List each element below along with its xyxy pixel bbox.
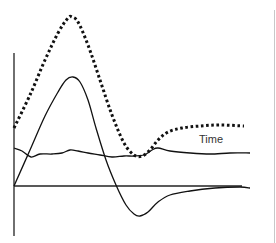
solid-peak-response-curve [14, 77, 250, 216]
diagram-canvas [0, 0, 276, 243]
frame-border [274, 10, 275, 243]
time-axis-label: Time [199, 133, 223, 145]
